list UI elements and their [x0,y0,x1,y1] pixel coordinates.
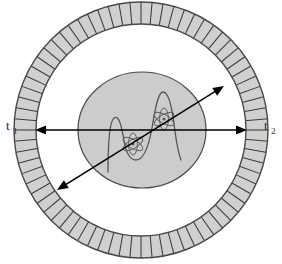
figure-root: t 1 t 2 [0,0,282,264]
label-t2-subscript: 2 [271,126,276,136]
scanner-diagram: t 1 t 2 [0,0,282,264]
atom-nucleus [162,117,165,120]
label-t2-base: t [264,118,268,133]
label-t1-base: t [6,118,10,133]
label-t1-subscript: 1 [13,126,18,136]
